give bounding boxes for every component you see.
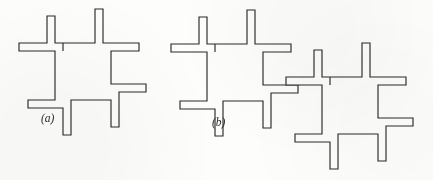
figure-plate: (a) (b) [0,0,433,180]
panel-a-label: (a) [41,112,55,125]
figure-canvas: (a) (b) [0,0,433,180]
panel-b-label: (b) [212,116,226,129]
